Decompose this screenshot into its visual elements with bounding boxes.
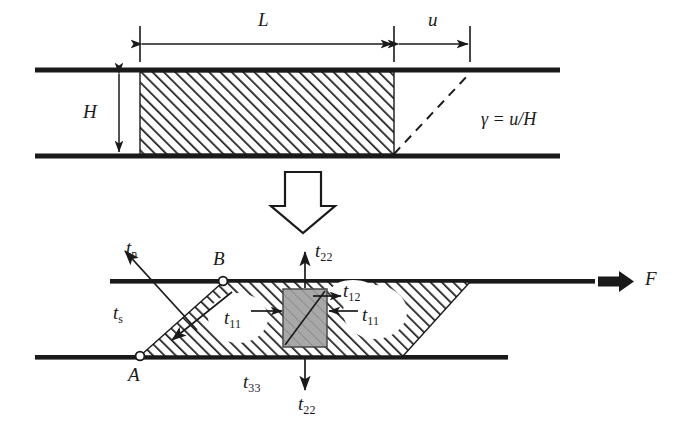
label-traction-shear: ts (113, 303, 123, 322)
label-stress-22-top: t22 (315, 241, 333, 260)
label-stress-11-left-subscript: 11 (229, 317, 241, 331)
bottom-panel-group (35, 251, 634, 390)
transition-arrow-group (271, 172, 335, 233)
point-marker-a (136, 352, 145, 361)
label-point-a: A (128, 365, 140, 384)
label-stress-22-bottom: t22 (298, 394, 316, 413)
label-stress-22-bottom-subscript: 22 (303, 403, 315, 417)
label-stress-12: t12 (343, 281, 361, 300)
force-arrow (598, 271, 634, 292)
label-stress-12-subscript: 12 (348, 290, 360, 304)
label-stress-33: t33 (243, 372, 261, 391)
label-stress-11-right: t11 (362, 305, 379, 324)
label-stress-11-left: t11 (224, 308, 241, 327)
label-stress-11-right-subscript: 11 (367, 314, 379, 328)
point-marker-b (219, 277, 228, 286)
label-shear-strain: γ = u/H (481, 110, 536, 128)
undeformed-block (140, 72, 394, 154)
shear-deformation-figure: L u H γ = u/H tn ts B A t22 t22 t12 t11 … (0, 0, 680, 427)
label-point-b: B (213, 249, 225, 268)
label-displacement-u: u (428, 10, 438, 29)
label-length-L: L (258, 10, 269, 29)
hollow-down-arrow (271, 172, 335, 233)
traction-normal-arrow (125, 251, 197, 330)
label-stress-22-top-subscript: 22 (320, 250, 332, 264)
figure-canvas (0, 0, 680, 427)
label-traction-normal: tn (126, 238, 137, 257)
label-height-H: H (83, 102, 97, 121)
label-traction-normal-subscript: n (131, 247, 137, 261)
dashed-shear-line (394, 73, 470, 154)
label-force-f: F (645, 269, 657, 288)
top-panel-group (35, 26, 560, 159)
label-traction-shear-subscript: s (118, 312, 123, 326)
label-stress-33-subscript: 33 (248, 381, 260, 395)
